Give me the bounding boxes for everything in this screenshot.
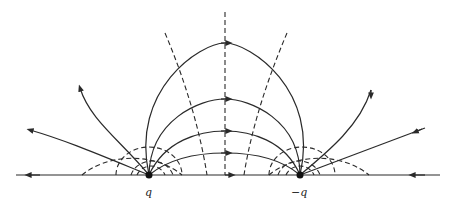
field-line-left-out	[30, 130, 149, 175]
dipole-diagram: q −q	[0, 0, 451, 208]
charge-positive	[146, 172, 153, 179]
field-line-left-up	[80, 88, 149, 175]
label-neg-q: −q	[291, 186, 307, 199]
field-diagram-svg	[0, 0, 451, 208]
field-line-right-out	[300, 128, 425, 175]
label-q: q	[145, 186, 152, 199]
charge-negative	[297, 172, 304, 179]
